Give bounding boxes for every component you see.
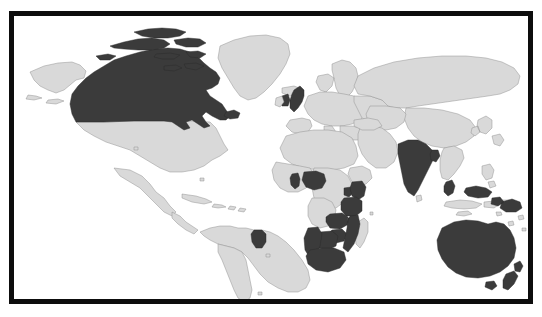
map-canvas xyxy=(14,16,528,299)
country-tanzania-highlighted xyxy=(341,197,362,216)
screenshot-root xyxy=(0,0,542,317)
region-turkey-caucasus xyxy=(354,118,382,130)
region-north-africa xyxy=(280,130,358,170)
world-map-svg xyxy=(14,16,528,299)
